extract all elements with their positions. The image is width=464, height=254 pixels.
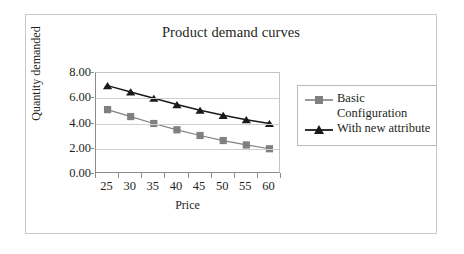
data-point-triangle-marker: [126, 88, 135, 95]
y-axis-tick-label: 6.00: [69, 91, 91, 104]
x-axis-tickmark: [280, 173, 281, 178]
data-point-square-marker: [104, 106, 111, 113]
gridline: [96, 124, 279, 125]
y-axis-tickmark: [89, 123, 94, 124]
legend-label-basic-configuration: Basic Configuration: [337, 91, 407, 120]
y-axis-tickmark: [89, 173, 94, 174]
x-axis-tickmark: [118, 173, 119, 178]
gridline: [96, 149, 279, 150]
y-axis-tick-label: 2.00: [69, 142, 91, 155]
x-axis-tickmark: [188, 173, 189, 178]
y-axis-title: Quantity demanded: [29, 18, 44, 130]
data-point-square-marker: [243, 141, 250, 148]
plot-area: [95, 72, 280, 173]
y-axis-tickmark: [89, 148, 94, 149]
x-axis-title: Price: [95, 198, 280, 213]
legend-entry-with-new-attribute: With new attribute: [304, 121, 430, 137]
legend-label-with-new-attribute: With new attribute: [337, 121, 430, 136]
legend-entry-basic-configuration: Basic Configuration: [304, 91, 407, 120]
chart-legend: Basic Configuration With new attribute: [297, 85, 437, 146]
y-axis-tickmark: [89, 97, 94, 98]
x-axis-tickmark: [141, 173, 142, 178]
data-series: [103, 82, 274, 127]
data-point-square-marker: [220, 137, 227, 144]
y-axis-tick-label: 0.00: [69, 167, 91, 180]
data-series: [104, 106, 273, 152]
x-axis-tickmark: [211, 173, 212, 178]
x-axis-tickmark: [257, 173, 258, 178]
data-point-triangle-marker: [172, 101, 181, 108]
y-axis-tickmark: [89, 72, 94, 73]
data-point-square-marker: [127, 113, 134, 120]
x-axis-tickmark: [234, 173, 235, 178]
x-axis-tick-label: 60: [253, 180, 283, 193]
legend-marker-square-icon: [304, 93, 334, 107]
y-axis-tick-labels: 0.002.004.006.008.00: [55, 72, 91, 173]
x-axis-tickmark: [164, 173, 165, 178]
data-point-triangle-marker: [103, 82, 112, 89]
chart-title: Product demand curves: [25, 24, 437, 41]
data-point-square-marker: [173, 126, 180, 133]
gridline: [96, 98, 279, 99]
y-axis-tick-label: 4.00: [69, 117, 91, 130]
chart-figure: Product demand curves Quantity demanded …: [0, 0, 464, 254]
legend-marker-triangle-icon: [304, 123, 334, 137]
x-axis-tickmark: [95, 173, 96, 178]
data-point-square-marker: [196, 132, 203, 139]
y-axis-tick-label: 8.00: [69, 66, 91, 79]
